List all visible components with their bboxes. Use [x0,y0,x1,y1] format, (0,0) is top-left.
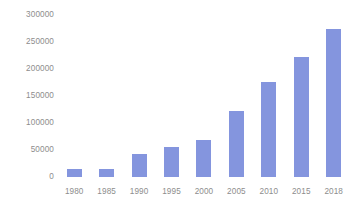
bar [67,169,82,177]
y-tick-label: 300000 [0,11,54,19]
bar [132,154,147,177]
x-tick-slot: 1995 [155,180,187,196]
y-tick-label: 150000 [0,92,54,100]
x-tick-label: 2000 [195,187,214,196]
x-tick-slot: 2018 [318,180,350,196]
x-tick-slot: 1985 [90,180,122,196]
x-tick-slot: 2005 [220,180,252,196]
x-tick-label: 2005 [227,187,246,196]
x-tick-slot: 2000 [188,180,220,196]
y-tick-label: 100000 [0,119,54,127]
bar [229,111,244,177]
x-axis: 198019851990199520002005201020152018 [58,180,350,196]
x-tick-label: 1980 [65,187,84,196]
bar-slot [188,15,220,177]
bar [294,57,309,177]
x-tick-label: 2015 [292,187,311,196]
x-tick-label: 1985 [97,187,116,196]
x-tick-label: 2018 [324,187,343,196]
x-tick-slot: 1990 [123,180,155,196]
y-tick-label: 0 [0,173,54,181]
bar-slot [123,15,155,177]
bar [326,29,341,177]
y-axis: 050000100000150000200000250000300000 [0,0,54,205]
bar [196,140,211,177]
bar-slot [220,15,252,177]
bar-slot [318,15,350,177]
bar-slot [155,15,187,177]
bar [164,147,179,177]
y-tick-label: 250000 [0,38,54,46]
bar-slot [58,15,90,177]
bar-slot [90,15,122,177]
bar-series [58,15,350,177]
bar-slot [253,15,285,177]
y-tick-label: 50000 [0,146,54,154]
y-tick-label: 200000 [0,65,54,73]
bar-slot [285,15,317,177]
bar-chart: 050000100000150000200000250000300000 198… [0,0,359,205]
x-tick-label: 1995 [162,187,181,196]
x-tick-label: 1990 [130,187,149,196]
x-tick-slot: 2010 [253,180,285,196]
bar [261,82,276,177]
x-tick-slot: 1980 [58,180,90,196]
x-tick-label: 2010 [260,187,279,196]
x-tick-slot: 2015 [285,180,317,196]
plot-area [58,15,350,177]
bar [99,169,114,177]
